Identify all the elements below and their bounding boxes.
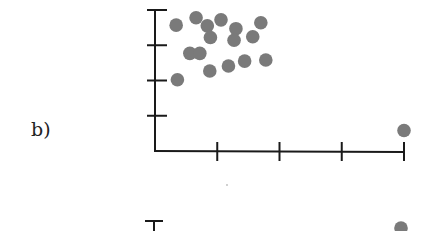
axes: [147, 10, 404, 161]
data-point: [203, 64, 217, 78]
data-point: [200, 19, 214, 33]
data-point: [397, 124, 411, 138]
data-point: [193, 47, 207, 61]
data-point: [169, 18, 183, 32]
data-point: [222, 59, 236, 73]
second-chart-partial: [145, 184, 408, 231]
data-point: [246, 30, 260, 44]
scatter-chart: [0, 0, 424, 231]
data-point: [254, 16, 268, 30]
data-point: [227, 34, 241, 48]
data-point: [229, 22, 243, 36]
data-point: [214, 13, 228, 27]
data-point: [259, 53, 273, 67]
data-point: [394, 221, 408, 231]
data-point: [204, 31, 218, 45]
data-points: [169, 11, 410, 137]
data-point: [238, 54, 252, 68]
data-point: [171, 73, 185, 87]
data-point: [189, 11, 203, 25]
speck: [226, 184, 228, 186]
